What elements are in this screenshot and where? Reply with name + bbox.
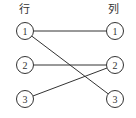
edges xyxy=(32,31,108,96)
svg-text:3: 3 xyxy=(113,94,118,105)
right-node-2: 2 xyxy=(107,57,124,74)
bipartite-graph: 123123 xyxy=(0,0,136,118)
edge-left-3-right-2 xyxy=(33,68,107,96)
svg-text:2: 2 xyxy=(113,60,118,71)
svg-text:2: 2 xyxy=(23,60,28,71)
svg-text:3: 3 xyxy=(23,94,28,105)
svg-text:1: 1 xyxy=(113,26,118,37)
svg-text:1: 1 xyxy=(23,26,28,37)
right-node-1: 1 xyxy=(107,23,124,40)
left-node-2: 2 xyxy=(17,57,34,74)
left-node-3: 3 xyxy=(17,91,34,108)
left-node-1: 1 xyxy=(17,23,34,40)
right-node-3: 3 xyxy=(107,91,124,108)
